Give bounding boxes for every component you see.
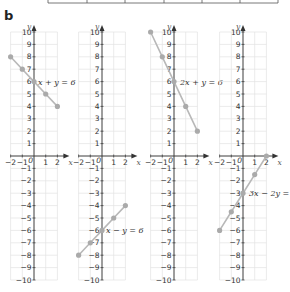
y-tick-label: −7 [229, 238, 240, 247]
data-point [229, 209, 234, 214]
y-tick-label: 4 [95, 102, 100, 111]
y-tick-label: 3 [236, 114, 241, 123]
y-tick-label: 8 [236, 52, 241, 61]
graph-2: yx10987654321−1−2−3−4−5−6−7−8−9−10−2−101… [73, 22, 144, 285]
graph-4: yx10987654321−1−2−3−4−5−6−7−8−9−10−2−101… [214, 22, 290, 285]
y-tick-label: 6 [95, 77, 100, 86]
x-tick-label: −2 [214, 158, 225, 167]
data-point [148, 29, 153, 34]
y-tick-label: −2 [229, 176, 240, 185]
y-tick-label: 9 [236, 40, 241, 49]
graph-3: yx10987654321−1−2−3−4−5−6−7−8−9−10−2−101… [145, 22, 223, 285]
x-tick-label: 2 [123, 158, 128, 167]
data-point [264, 153, 269, 158]
y-tick-label: −6 [160, 226, 171, 235]
y-tick-label: −3 [88, 189, 99, 198]
y-tick-label: −9 [160, 263, 171, 272]
y-tick-label: −9 [20, 263, 31, 272]
data-point [76, 253, 81, 258]
x-tick-label: 2 [195, 158, 200, 167]
y-tick-label: 10 [90, 28, 100, 37]
origin-label: 0 [237, 156, 242, 165]
data-point [123, 203, 128, 208]
y-axis-arrow-icon [172, 25, 177, 31]
y-tick-label: −10 [84, 276, 100, 285]
x-tick-label: 1 [183, 158, 188, 167]
y-tick-label: 9 [95, 40, 100, 49]
y-tick-label: 2 [95, 127, 100, 136]
y-tick-label: −10 [16, 276, 32, 285]
equation-label: 2x + y = 6 [179, 78, 223, 87]
data-point [183, 104, 188, 109]
x-tick-label: 1 [111, 158, 116, 167]
y-tick-label: −5 [20, 214, 31, 223]
y-axis-arrow-icon [100, 25, 105, 31]
x-tick-label: 1 [252, 158, 257, 167]
y-tick-label: −5 [160, 214, 171, 223]
y-tick-label: 9 [167, 40, 172, 49]
origin-label: 0 [28, 156, 33, 165]
data-point [88, 240, 93, 245]
data-point [55, 104, 60, 109]
y-tick-label: 5 [27, 90, 32, 99]
y-tick-label: 5 [236, 90, 241, 99]
y-tick-label: −10 [225, 276, 241, 285]
y-tick-label: −9 [229, 263, 240, 272]
x-axis-label: x [208, 158, 213, 167]
y-tick-label: −7 [160, 238, 171, 247]
data-point [31, 79, 36, 84]
equation-label: 3x − 2y = 6 [249, 189, 290, 198]
data-point [217, 228, 222, 233]
y-tick-label: 9 [27, 40, 32, 49]
y-tick-label: 8 [27, 52, 32, 61]
y-tick-label: 4 [27, 102, 32, 111]
y-tick-label: 2 [27, 127, 32, 136]
y-tick-label: −9 [88, 263, 99, 272]
data-point [240, 191, 245, 196]
data-point [43, 91, 48, 96]
data-point [99, 228, 104, 233]
data-point [160, 54, 165, 59]
table-fragment [48, 0, 278, 3]
y-tick-label: 1 [95, 139, 100, 148]
data-point [111, 215, 116, 220]
y-tick-label: −3 [20, 189, 31, 198]
data-point [171, 79, 176, 84]
data-point [20, 67, 25, 72]
data-point [195, 129, 200, 134]
data-point [8, 54, 13, 59]
x-axis-label: x [277, 158, 282, 167]
y-tick-label: −8 [88, 251, 99, 260]
y-tick-label: −10 [156, 276, 172, 285]
y-tick-label: 7 [236, 65, 241, 74]
y-tick-label: 7 [27, 65, 32, 74]
y-tick-label: 7 [95, 65, 100, 74]
y-tick-label: −2 [20, 176, 31, 185]
y-tick-label: 10 [22, 28, 32, 37]
y-tick-label: 8 [95, 52, 100, 61]
y-tick-label: 4 [167, 102, 172, 111]
y-tick-label: 1 [236, 139, 241, 148]
x-tick-label: −1 [17, 158, 28, 167]
y-tick-label: −4 [88, 201, 99, 210]
x-tick-label: −1 [157, 158, 168, 167]
x-tick-label: 1 [43, 158, 48, 167]
x-tick-label: −2 [73, 158, 84, 167]
y-tick-label: 6 [236, 77, 241, 86]
y-axis-arrow-icon [32, 25, 37, 31]
origin-label: 0 [168, 156, 173, 165]
y-tick-label: 10 [162, 28, 172, 37]
x-tick-label: 2 [55, 158, 60, 167]
y-tick-label: 2 [167, 127, 172, 136]
x-axis-label: x [136, 158, 141, 167]
y-tick-label: −7 [20, 238, 31, 247]
y-axis-arrow-icon [241, 25, 246, 31]
y-tick-label: −5 [229, 214, 240, 223]
x-tick-label: −1 [85, 158, 96, 167]
y-tick-label: −5 [88, 214, 99, 223]
y-tick-label: −3 [229, 189, 240, 198]
graphs-panel: yx10987654321−1−2−3−4−5−6−7−8−9−10−2−101… [0, 0, 290, 292]
y-tick-label: 4 [236, 102, 241, 111]
y-tick-label: −2 [88, 176, 99, 185]
y-tick-label: 5 [95, 90, 100, 99]
